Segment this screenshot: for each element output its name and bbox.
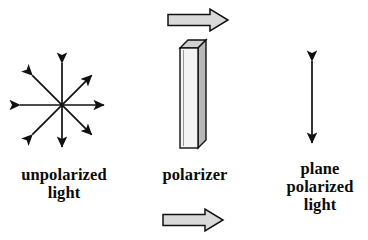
label-plane-polarized-light: plane polarized light [272, 160, 368, 213]
transmitted-beam-arrow [163, 209, 223, 231]
polarizer-slab [180, 40, 206, 148]
unpolarized-light-star [20, 63, 104, 147]
label-polarizer: polarizer [140, 166, 250, 184]
polarizer-side-face [198, 40, 206, 148]
label-unpolarized-light: unpolarized light [0, 166, 128, 202]
incident-beam-arrow [168, 9, 228, 31]
polarizer-front-face [180, 48, 198, 148]
polarization-diagram: unpolarized light polarizer plane polari… [0, 0, 368, 240]
